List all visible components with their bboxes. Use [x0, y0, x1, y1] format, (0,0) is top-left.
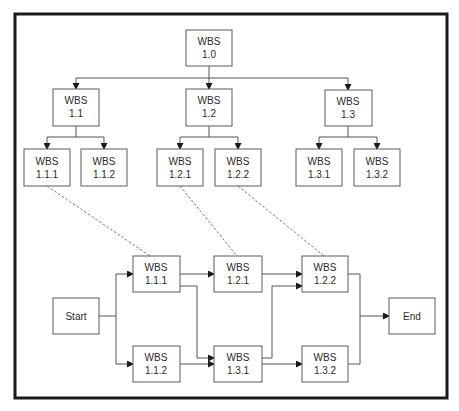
mapping-line-1-2-1 [180, 186, 237, 256]
wbs-node-1-3-2: WBS 1.3.2 [354, 149, 400, 186]
wbs-node-1-0: WBS 1.0 [186, 30, 232, 66]
wbs-node-1-2: WBS 1.2 [186, 89, 232, 126]
svg-text:WBS: WBS [65, 95, 88, 106]
svg-text:End: End [403, 311, 421, 322]
network-end-node: End [389, 298, 435, 334]
network-node-1-3-1: WBS 1.3.1 [214, 346, 262, 382]
svg-text:1.3.1: 1.3.1 [227, 365, 250, 376]
svg-text:WBS: WBS [145, 352, 168, 363]
svg-text:WBS: WBS [366, 156, 389, 167]
network-node-1-1-1: WBS 1.1.1 [133, 256, 180, 292]
svg-text:1.1: 1.1 [69, 108, 83, 119]
wbs-node-1-3: WBS 1.3 [325, 90, 372, 126]
svg-text:1.3.1: 1.3.1 [308, 169, 331, 180]
svg-text:WBS: WBS [169, 156, 192, 167]
wbs-node-1-1: WBS 1.1 [53, 89, 99, 126]
wbs-node-1-2-1: WBS 1.2.1 [157, 149, 203, 186]
wbs-node-1-1-1: WBS 1.1.1 [24, 149, 70, 186]
network-node-1-2-1: WBS 1.2.1 [214, 256, 262, 292]
svg-text:1.1.2: 1.1.2 [145, 365, 168, 376]
svg-text:WBS: WBS [36, 156, 59, 167]
svg-text:WBS: WBS [314, 262, 337, 273]
svg-text:WBS: WBS [337, 96, 360, 107]
svg-text:WBS: WBS [198, 36, 221, 47]
svg-text:1.3.2: 1.3.2 [366, 169, 389, 180]
mapping-line-1-1-1 [47, 186, 150, 256]
network-node-1-3-2: WBS 1.3.2 [302, 346, 348, 382]
diagram-frame [15, 14, 447, 398]
svg-text:WBS: WBS [227, 352, 250, 363]
svg-text:WBS: WBS [227, 156, 250, 167]
svg-text:1.2.1: 1.2.1 [227, 275, 250, 286]
svg-text:1.1.1: 1.1.1 [145, 275, 168, 286]
svg-text:WBS: WBS [145, 262, 168, 273]
svg-text:WBS: WBS [227, 262, 250, 273]
network-start-node: Start [53, 298, 99, 334]
svg-text:WBS: WBS [314, 352, 337, 363]
mapping-line-1-2-2 [238, 186, 324, 256]
svg-text:WBS: WBS [93, 156, 116, 167]
svg-text:WBS: WBS [308, 156, 331, 167]
svg-text:WBS: WBS [198, 95, 221, 106]
svg-text:1.2: 1.2 [202, 108, 216, 119]
svg-text:1.2.2: 1.2.2 [227, 169, 250, 180]
svg-text:1.3.2: 1.3.2 [314, 365, 337, 376]
svg-text:Start: Start [65, 311, 86, 322]
wbs-node-1-2-2: WBS 1.2.2 [215, 149, 261, 186]
svg-text:1.3: 1.3 [341, 109, 355, 120]
svg-text:1.2.2: 1.2.2 [314, 275, 337, 286]
wbs-node-1-3-1: WBS 1.3.1 [296, 149, 342, 186]
network-node-1-2-2: WBS 1.2.2 [302, 256, 348, 292]
svg-text:1.0: 1.0 [202, 49, 216, 60]
wbs-node-1-1-2: WBS 1.1.2 [81, 149, 127, 186]
mapping-lines [47, 186, 324, 256]
svg-text:1.2.1: 1.2.1 [169, 169, 192, 180]
svg-text:1.1.1: 1.1.1 [36, 169, 59, 180]
wbs-network-diagram: WBS 1.0 WBS 1.1 WBS 1.2 WBS 1.3 WBS 1.1.… [0, 0, 459, 411]
network-node-1-1-2: WBS 1.1.2 [133, 346, 180, 382]
svg-text:1.1.2: 1.1.2 [93, 169, 116, 180]
